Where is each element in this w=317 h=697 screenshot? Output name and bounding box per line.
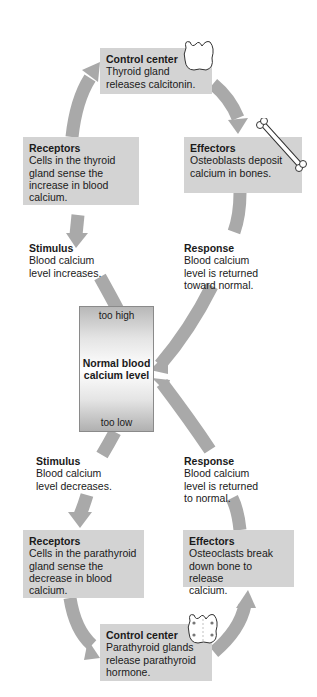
arrow-receptors-to-control-top (72, 78, 90, 137)
bone-icon (255, 118, 307, 174)
control-center-line: hormone. (106, 666, 206, 678)
stimulus-increase: Stimulus Blood calcium level increases. (29, 242, 101, 279)
response-line: toward normal. (184, 279, 258, 291)
response-to-normal: Response Blood calcium level is returned… (184, 455, 258, 504)
receptors-line: Cells in the thyroid (29, 154, 133, 166)
receptors-line: calcium. (29, 584, 138, 596)
receptors-parathyroid: Receptors Cells in the parathyroid gland… (23, 530, 144, 598)
receptors-title: Receptors (29, 535, 138, 547)
effectors-line: calcium. (189, 584, 288, 596)
effectors-title: Effectors (189, 535, 288, 547)
stimulus-title: Stimulus (36, 455, 112, 467)
receptors-thyroid: Receptors Cells in the thyroid gland sen… (23, 137, 139, 205)
thyroid-gland-icon (182, 38, 216, 74)
control-center-line: releases calcitonin. (106, 78, 206, 90)
normal-level-line: Normal blood (80, 357, 153, 369)
receptors-line: calcium. (29, 191, 133, 203)
stimulus-line: Blood calcium (36, 467, 112, 479)
response-line: to normal. (184, 492, 258, 504)
response-toward-normal: Response Blood calcium level is returned… (184, 242, 258, 291)
receptors-line: increase in blood (29, 179, 133, 191)
effectors-osteoclasts: Effectors Osteoclasts break down bone to… (183, 530, 294, 587)
response-line: Blood calcium (184, 254, 258, 266)
normal-calcium-level-box: too high Normal blood calcium level too … (79, 306, 154, 432)
receptors-line: decrease in blood (29, 572, 138, 584)
receptors-line: Cells in the parathyroid (29, 547, 138, 559)
receptors-line: gland sense the (29, 167, 133, 179)
parathyroid-glands-icon (186, 611, 220, 647)
effectors-line: down bone to release (189, 560, 288, 585)
too-high-label: too high (80, 310, 153, 321)
stimulus-title: Stimulus (29, 242, 101, 254)
receptors-line: gland sense the (29, 560, 138, 572)
stimulus-line: level increases. (29, 267, 101, 279)
stimulus-line: Blood calcium (29, 254, 101, 266)
response-line: level is returned (184, 267, 258, 279)
response-line: Blood calcium (184, 467, 258, 479)
effectors-line: Osteoclasts break (189, 547, 288, 559)
too-low-label: too low (80, 417, 153, 428)
response-title: Response (184, 455, 258, 467)
stimulus-line: level decreases. (36, 480, 112, 492)
receptors-title: Receptors (29, 142, 133, 154)
stimulus-decrease: Stimulus Blood calcium level decreases. (36, 455, 112, 492)
normal-level-label: Normal blood calcium level (80, 357, 153, 381)
arrow-control-to-effectors-top (213, 84, 238, 118)
response-line: level is returned (184, 480, 258, 492)
control-center-line: release parathyroid (106, 654, 206, 666)
normal-level-line: calcium level (80, 369, 153, 381)
response-title: Response (184, 242, 258, 254)
